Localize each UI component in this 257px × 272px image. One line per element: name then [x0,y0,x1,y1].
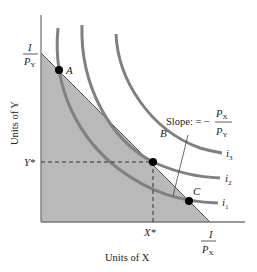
slope-annotation-prefix: Slope: = − [166,116,210,127]
indifference-curve-i3 [116,34,222,153]
curve-i1-label: i1 [222,196,229,211]
x-intercept-denominator: PX [201,244,213,257]
point-b [149,158,157,166]
x-star-label: X* [143,227,156,238]
curve-i3-label: i3 [226,147,233,162]
x-axis-title: Units of X [105,252,150,263]
point-a-label: A [65,64,73,76]
curve-i2-label: i2 [225,172,232,187]
slope-numerator: PX [215,108,227,121]
slope-leader-line [173,135,188,196]
x-intercept-numerator: I [208,229,213,240]
slope-denominator: PY [215,126,227,139]
point-c [185,197,193,205]
y-star-label: Y* [24,157,36,168]
point-b-label: B [160,127,167,139]
y-intercept-denominator: PY [23,56,35,69]
point-c-label: C [193,185,201,197]
point-a [55,66,63,74]
y-intercept-numerator: I [27,42,32,53]
indifference-curve-diagram: A B C i3 i2 i1 Slope: = − PX PY I PY I P… [0,0,257,272]
y-axis-title: Units of Y [9,101,20,145]
